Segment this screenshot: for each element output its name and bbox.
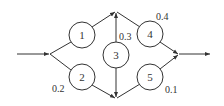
svg-text:4: 4 [147,28,153,40]
prob-label-3: 0.3 [119,31,132,42]
node-1: 1 [69,22,95,48]
prob-label-4: 0.4 [156,11,169,22]
svg-text:1: 1 [79,29,85,41]
edge-split-2 [50,54,71,70]
network-diagram: 1 2 3 4 5 0.2 0.3 0.4 0.1 [0,0,224,106]
prob-label-5: 0.1 [165,84,178,95]
svg-text:5: 5 [147,71,153,83]
edge-1-top [92,12,115,27]
edge-split-1 [50,42,71,54]
edge-5-merge [160,55,178,69]
node-4: 4 [137,21,163,47]
svg-text:3: 3 [113,49,119,61]
node-3: 3 [103,42,129,68]
svg-text:2: 2 [79,71,85,83]
edge-2-bottom [92,85,115,98]
prob-label-2: 0.2 [52,83,65,94]
edge-top-4 [117,12,140,27]
node-2: 2 [69,64,95,90]
node-5: 5 [137,64,163,90]
edge-4-merge [160,42,178,54]
edge-bottom-5 [117,84,140,98]
